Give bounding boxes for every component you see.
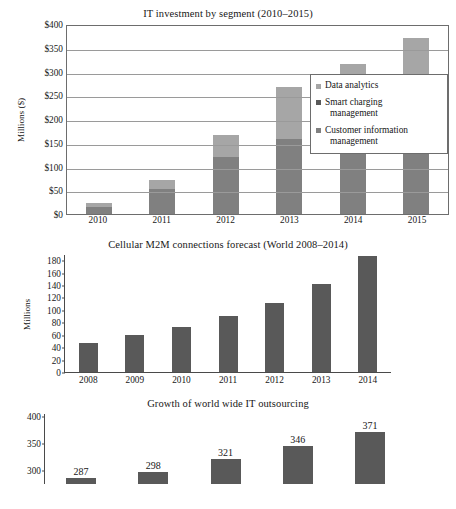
x-tick-label: 2013: [257, 215, 321, 225]
chart1-title: IT investment by segment (2010–2015): [0, 8, 456, 19]
bar: [355, 432, 385, 484]
chart2-y-axis-label: Millions: [20, 255, 34, 373]
bar-group: [194, 26, 258, 214]
bar: [66, 478, 96, 484]
axis-tick-mark: [62, 286, 65, 287]
bar: [358, 256, 377, 372]
y-tick-label: 40: [52, 343, 61, 353]
bar: [283, 446, 313, 484]
bar: [312, 284, 331, 372]
legend-swatch-icon: [316, 84, 321, 89]
x-tick-label: 2014: [321, 215, 385, 225]
bar-segment: [276, 139, 302, 214]
bar-data-label: 287: [74, 466, 89, 477]
y-tick-label: $300: [44, 68, 63, 78]
bar-segment: [138, 472, 168, 484]
chart1-x-tick-labels: 201020112012201320142015: [66, 215, 449, 225]
bar-segment: [149, 180, 175, 189]
legend-swatch-icon: [316, 128, 321, 133]
x-tick-label: 2015: [385, 215, 449, 225]
bar-segment: [358, 256, 377, 372]
y-tick-label: 20: [52, 356, 61, 366]
legend-label: Customer informationmanagement: [325, 125, 408, 148]
chart3-bars: 287298321346371: [45, 414, 406, 484]
bar-group: [158, 255, 205, 372]
bar: [149, 180, 175, 214]
bar: [213, 135, 239, 214]
bar: [86, 203, 112, 214]
bar-group: 371: [334, 414, 406, 484]
bar: [265, 303, 284, 372]
x-tick-label: 2012: [251, 375, 298, 385]
bar-segment: [265, 303, 284, 372]
bar-segment: [312, 284, 331, 372]
bar: [125, 335, 144, 372]
bar-segment: [86, 207, 112, 214]
legend-label-line2: management: [325, 136, 408, 148]
y-tick-label: $200: [44, 115, 63, 125]
legend-item[interactable]: Customer informationmanagement: [316, 125, 443, 148]
bar-segment: [211, 459, 241, 484]
legend-label-line1: Smart charging: [325, 97, 382, 107]
axis-tick-mark: [62, 273, 65, 274]
x-tick-label: 2009: [112, 375, 159, 385]
gridline: [67, 192, 448, 193]
axis-tick-mark: [62, 310, 65, 311]
y-tick-label: $250: [44, 91, 63, 101]
bar-group: 321: [189, 414, 261, 484]
x-tick-label: 2014: [344, 375, 391, 385]
bar-group: 346: [262, 414, 334, 484]
bar: [79, 343, 98, 372]
bar-segment: [213, 135, 239, 158]
legend-label-line2: management: [325, 108, 382, 120]
chart3-title: Growth of world wide IT outsourcing: [0, 398, 456, 409]
bar-segment: [213, 157, 239, 214]
y-tick-label: 100: [47, 306, 61, 316]
legend-item[interactable]: Smart chargingmanagement: [316, 97, 443, 120]
chart2-bars: [65, 255, 391, 372]
y-tick-label: $350: [44, 44, 63, 54]
gridline: [67, 169, 448, 170]
chart1-y-tick-labels: $0$50$100$150$200$250$300$350$400: [28, 25, 66, 215]
legend-label-line1: Data analytics: [325, 80, 378, 90]
axis-tick-mark: [62, 298, 65, 299]
gridline: [67, 50, 448, 51]
axis-tick-mark: [42, 443, 45, 444]
y-tick-label: 350: [27, 439, 41, 449]
y-tick-label: 160: [47, 269, 61, 279]
x-tick-label: 2008: [65, 375, 112, 385]
y-tick-label: 120: [47, 293, 61, 303]
bar-group: [67, 26, 131, 214]
y-tick-label: 0: [56, 368, 61, 378]
bar: [219, 316, 238, 372]
chart2-plot-row: Millions 020406080100120140160180: [0, 255, 456, 373]
y-tick-label: 80: [52, 318, 61, 328]
bar-group: [131, 26, 195, 214]
bar-segment: [79, 343, 98, 372]
y-tick-label: $400: [44, 20, 63, 30]
y-tick-label: $0: [54, 210, 63, 220]
axis-tick-mark: [62, 335, 65, 336]
bar-group: [205, 255, 252, 372]
bar: [211, 459, 241, 484]
axis-tick-mark: [62, 360, 65, 361]
y-tick-label: 300: [27, 466, 41, 476]
x-tick-label: 2010: [158, 375, 205, 385]
legend-item[interactable]: Data analytics: [316, 80, 443, 92]
chart2-plot-area: [64, 255, 391, 373]
y-tick-label: 180: [47, 256, 61, 266]
chart2-y-tick-labels: 020406080100120140160180: [34, 255, 64, 373]
x-tick-label: 2010: [66, 215, 130, 225]
bar-group: [65, 255, 112, 372]
chart2-title: Cellular M2M connections forecast (World…: [0, 239, 456, 250]
y-tick-label: 60: [52, 331, 61, 341]
bar-data-label: 371: [362, 420, 377, 431]
chart3-plot-area: 287298321346371: [44, 414, 406, 484]
y-tick-label: $100: [44, 163, 63, 173]
bar-group: 287: [45, 414, 117, 484]
bar-data-label: 321: [218, 447, 233, 458]
x-tick-label: 2012: [194, 215, 258, 225]
bar-segment: [125, 335, 144, 372]
bar-group: [112, 255, 159, 372]
legend-label: Data analytics: [325, 80, 378, 92]
